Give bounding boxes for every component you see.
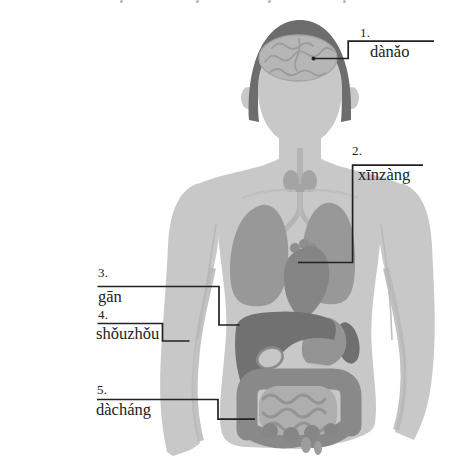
label-1-number: 1. [360, 26, 370, 39]
label-5-term: dàcháng [96, 401, 151, 418]
label-3-number: 3. [98, 266, 108, 279]
label-4-number: 4. [98, 308, 108, 321]
label-4-term: shǒuzhǒu [96, 325, 159, 342]
label-1-term: dànǎo [370, 43, 409, 60]
label-3-term: gān [98, 288, 122, 305]
leader-dot-1 [312, 57, 316, 61]
anatomy-diagram: 1. dànǎo 2. xīnzàng 3. gān 4. shǒuzhǒu 5… [0, 0, 451, 460]
body-figure [0, 0, 451, 460]
label-2-term: xīnzàng [358, 166, 410, 183]
label-2-number: 2. [352, 144, 362, 157]
head [241, 20, 359, 146]
label-5-number: 5. [97, 383, 107, 396]
left-arm [160, 184, 219, 456]
right-arm [379, 184, 435, 440]
